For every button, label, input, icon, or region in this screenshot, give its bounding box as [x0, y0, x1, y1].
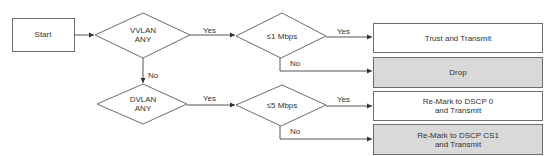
action-remark-dscp0: Re-Mark to DSCP 0 and Transmit — [373, 91, 543, 121]
action-remark-cs1-line2: and Transmit — [435, 140, 481, 149]
action-remark-cs1-line1: Re-Mark to DSCP CS1 — [417, 131, 499, 140]
decision-rate5-label: ≤5 Mbps — [252, 101, 312, 110]
start-node-label: Start — [12, 30, 74, 39]
action-trust-and-transmit: Trust and Transmit — [373, 23, 543, 53]
decision-vvlan-line1: VVLAN — [113, 26, 173, 35]
decision-vvlan-label: VVLAN ANY — [113, 26, 173, 44]
edge-label-rate1-yes: Yes — [337, 27, 350, 36]
decision-dvlan-line1: DVLAN — [113, 95, 173, 104]
decision-rate1-label: ≤1 Mbps — [252, 32, 312, 41]
decision-dvlan-line2: ANY — [113, 104, 173, 113]
action-remark-dscp-cs1: Re-Mark to DSCP CS1 and Transmit — [373, 124, 543, 155]
edge-label-dvlan-yes: Yes — [203, 94, 216, 103]
action-drop-line1: Drop — [449, 68, 466, 77]
edge-label-rate5-yes: Yes — [337, 95, 350, 104]
decision-vvlan-line2: ANY — [113, 35, 173, 44]
edge-label-vvlan-no: No — [148, 71, 158, 80]
action-drop: Drop — [373, 57, 543, 88]
action-remark-dscp0-line2: and Transmit — [435, 106, 481, 115]
edge-label-vvlan-yes: Yes — [203, 26, 216, 35]
edge-label-rate1-no: No — [290, 59, 300, 68]
action-trust-line1: Trust and Transmit — [425, 34, 491, 43]
edge-label-rate5-no: No — [290, 127, 300, 136]
action-remark-dscp0-line1: Re-Mark to DSCP 0 — [423, 97, 494, 106]
decision-dvlan-label: DVLAN ANY — [113, 95, 173, 113]
